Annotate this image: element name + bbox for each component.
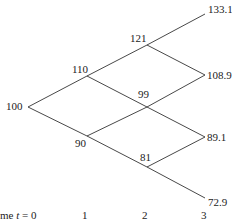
node-t3-udd: 89.1 bbox=[207, 131, 226, 143]
time-axis-label-t3: 3 bbox=[201, 209, 207, 221]
node-t2-uu: 121 bbox=[130, 32, 147, 44]
time-axis-label-t0: me t = 0 bbox=[0, 209, 36, 221]
tree-edges bbox=[0, 0, 232, 222]
binomial-tree-diagram: 100 110 90 121 99 81 133.1 108.9 89.1 72… bbox=[0, 0, 232, 222]
node-t3-uuu: 133.1 bbox=[208, 3, 232, 15]
node-t1-up: 110 bbox=[72, 63, 88, 75]
node-t2-ud: 99 bbox=[138, 88, 149, 100]
node-t1-down: 90 bbox=[75, 137, 86, 149]
node-t3-ddd: 72.9 bbox=[208, 196, 227, 208]
node-t0: 100 bbox=[6, 100, 23, 112]
node-t2-dd: 81 bbox=[140, 151, 151, 163]
time-axis-label-t1: 1 bbox=[82, 209, 88, 221]
node-t3-uud: 108.9 bbox=[207, 69, 232, 81]
time-axis-label-t2: 2 bbox=[142, 209, 148, 221]
